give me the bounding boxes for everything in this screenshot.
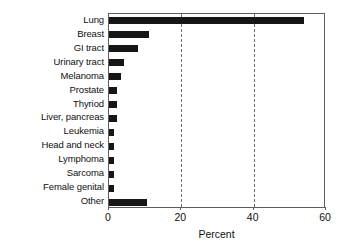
category-label: GI tract (0, 43, 104, 53)
bar (109, 87, 117, 94)
x-tick-label: 0 (88, 211, 128, 223)
bar (109, 157, 114, 164)
x-axis-title: Percent (108, 228, 325, 241)
gridline-20 (181, 14, 182, 207)
category-label: Head and neck (0, 140, 104, 150)
category-label: Sarcoma (0, 168, 104, 178)
bar (109, 143, 114, 150)
category-label: Urinary tract (0, 57, 104, 67)
x-tick-mark (325, 207, 326, 210)
category-label: Melanoma (0, 71, 104, 81)
x-axis-tick-labels: 0204060 (0, 210, 349, 226)
category-label: Female genital (0, 182, 104, 192)
bar (109, 129, 114, 136)
bar (109, 171, 114, 178)
x-tick-label: 20 (160, 211, 200, 223)
plot-area (108, 13, 325, 208)
category-label: Prostate (0, 85, 104, 95)
bar (109, 101, 117, 108)
x-tick-label: 60 (305, 211, 345, 223)
bar (109, 199, 147, 206)
category-label: Lymphoma (0, 154, 104, 164)
bar (109, 59, 124, 66)
x-tick-mark (108, 207, 109, 210)
x-tick-mark (253, 207, 254, 210)
bar (109, 17, 304, 24)
category-label: Leukemia (0, 126, 104, 136)
category-label: Breast (0, 29, 104, 39)
category-label: Thyriod (0, 99, 104, 109)
category-label: Other (0, 196, 104, 206)
bar (109, 185, 114, 192)
category-label: Liver, pancreas (0, 112, 104, 122)
bar (109, 115, 117, 122)
category-label: Lung (0, 15, 104, 25)
bar (109, 31, 149, 38)
gridline-40 (254, 14, 255, 207)
bar (109, 73, 121, 80)
x-tick-label: 40 (233, 211, 273, 223)
x-tick-mark (180, 207, 181, 210)
bar (109, 45, 138, 52)
y-axis-category-labels: LungBreastGI tractUrinary tractMelanomaP… (0, 12, 104, 208)
bar-chart: LungBreastGI tractUrinary tractMelanomaP… (0, 0, 349, 250)
